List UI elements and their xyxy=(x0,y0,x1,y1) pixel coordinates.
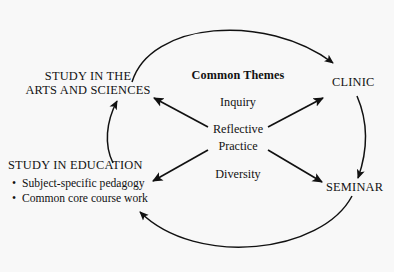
arc-clinic-to-seminar-connector xyxy=(357,96,366,178)
center-theme-reflective: Reflective xyxy=(213,123,263,137)
list-item: • Subject-specific pedagogy xyxy=(12,176,148,191)
bullet-icon: • xyxy=(12,191,16,206)
common-themes-diagram: STUDY IN THE ARTS AND SCIENCES CLINIC SE… xyxy=(0,0,394,272)
node-arts-and-sciences-line1: STUDY IN THE xyxy=(25,70,150,84)
spoke-center-to-seminar-connector xyxy=(268,150,322,182)
node-arts-and-sciences-line2: ARTS AND SCIENCES xyxy=(25,84,150,98)
arc-seminar-to-education-connector xyxy=(140,196,352,247)
center-theme-practice: Practice xyxy=(218,140,257,154)
connector-arrow-layer xyxy=(0,0,394,272)
arc-education-to-arts-connector xyxy=(107,101,117,163)
spoke-center-to-clinic-connector xyxy=(268,98,323,127)
node-study-in-education: STUDY IN EDUCATION xyxy=(8,159,143,173)
list-item-label: Common core course work xyxy=(22,192,148,205)
center-theme-diversity: Diversity xyxy=(215,168,260,182)
spoke-center-to-education-connector xyxy=(153,150,208,181)
node-seminar: SEMINAR xyxy=(326,181,383,195)
spoke-center-to-arts-connector xyxy=(154,98,208,127)
list-item: • Common core course work xyxy=(12,191,148,206)
center-heading: Common Themes xyxy=(192,69,285,83)
study-in-education-bullet-list: • Subject-specific pedagogy • Common cor… xyxy=(12,176,148,207)
node-clinic: CLINIC xyxy=(332,76,375,90)
center-theme-inquiry: Inquiry xyxy=(220,96,256,110)
list-item-label: Subject-specific pedagogy xyxy=(22,177,145,190)
node-arts-and-sciences: STUDY IN THE ARTS AND SCIENCES xyxy=(25,70,150,98)
bullet-icon: • xyxy=(12,176,16,191)
